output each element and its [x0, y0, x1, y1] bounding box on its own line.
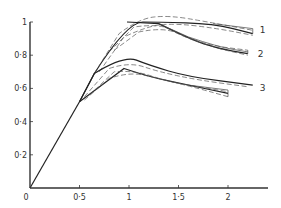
x-tick-label: 0·5 [73, 193, 86, 202]
y-tick-label: 0·6 [14, 84, 27, 93]
y-tick-label: 0·2 [14, 151, 27, 160]
series-labels: 123 [258, 25, 266, 93]
line-chart: 00·511·520·20·40·60·81 123 [0, 0, 281, 208]
series-label-1: 1 [260, 25, 266, 35]
y-tick-label: 1 [22, 18, 27, 27]
x-tick-label: 1 [126, 193, 131, 202]
x-tick-label: 1·5 [172, 193, 185, 202]
x-tick-label: 2 [225, 193, 230, 202]
x-tick-label: 0 [23, 193, 28, 202]
series-2-line [159, 24, 248, 52]
axes [30, 22, 268, 188]
series-label-3: 3 [260, 83, 266, 93]
y-tick-label: 0·4 [14, 118, 27, 127]
series-3-line [89, 71, 228, 95]
series-label-2: 2 [258, 49, 264, 59]
series-shared-initial-line [30, 102, 80, 188]
y-tick-label: 0·8 [14, 51, 27, 60]
series-layer [30, 16, 253, 188]
ticks-layer: 00·511·520·20·40·60·81 [14, 18, 230, 202]
